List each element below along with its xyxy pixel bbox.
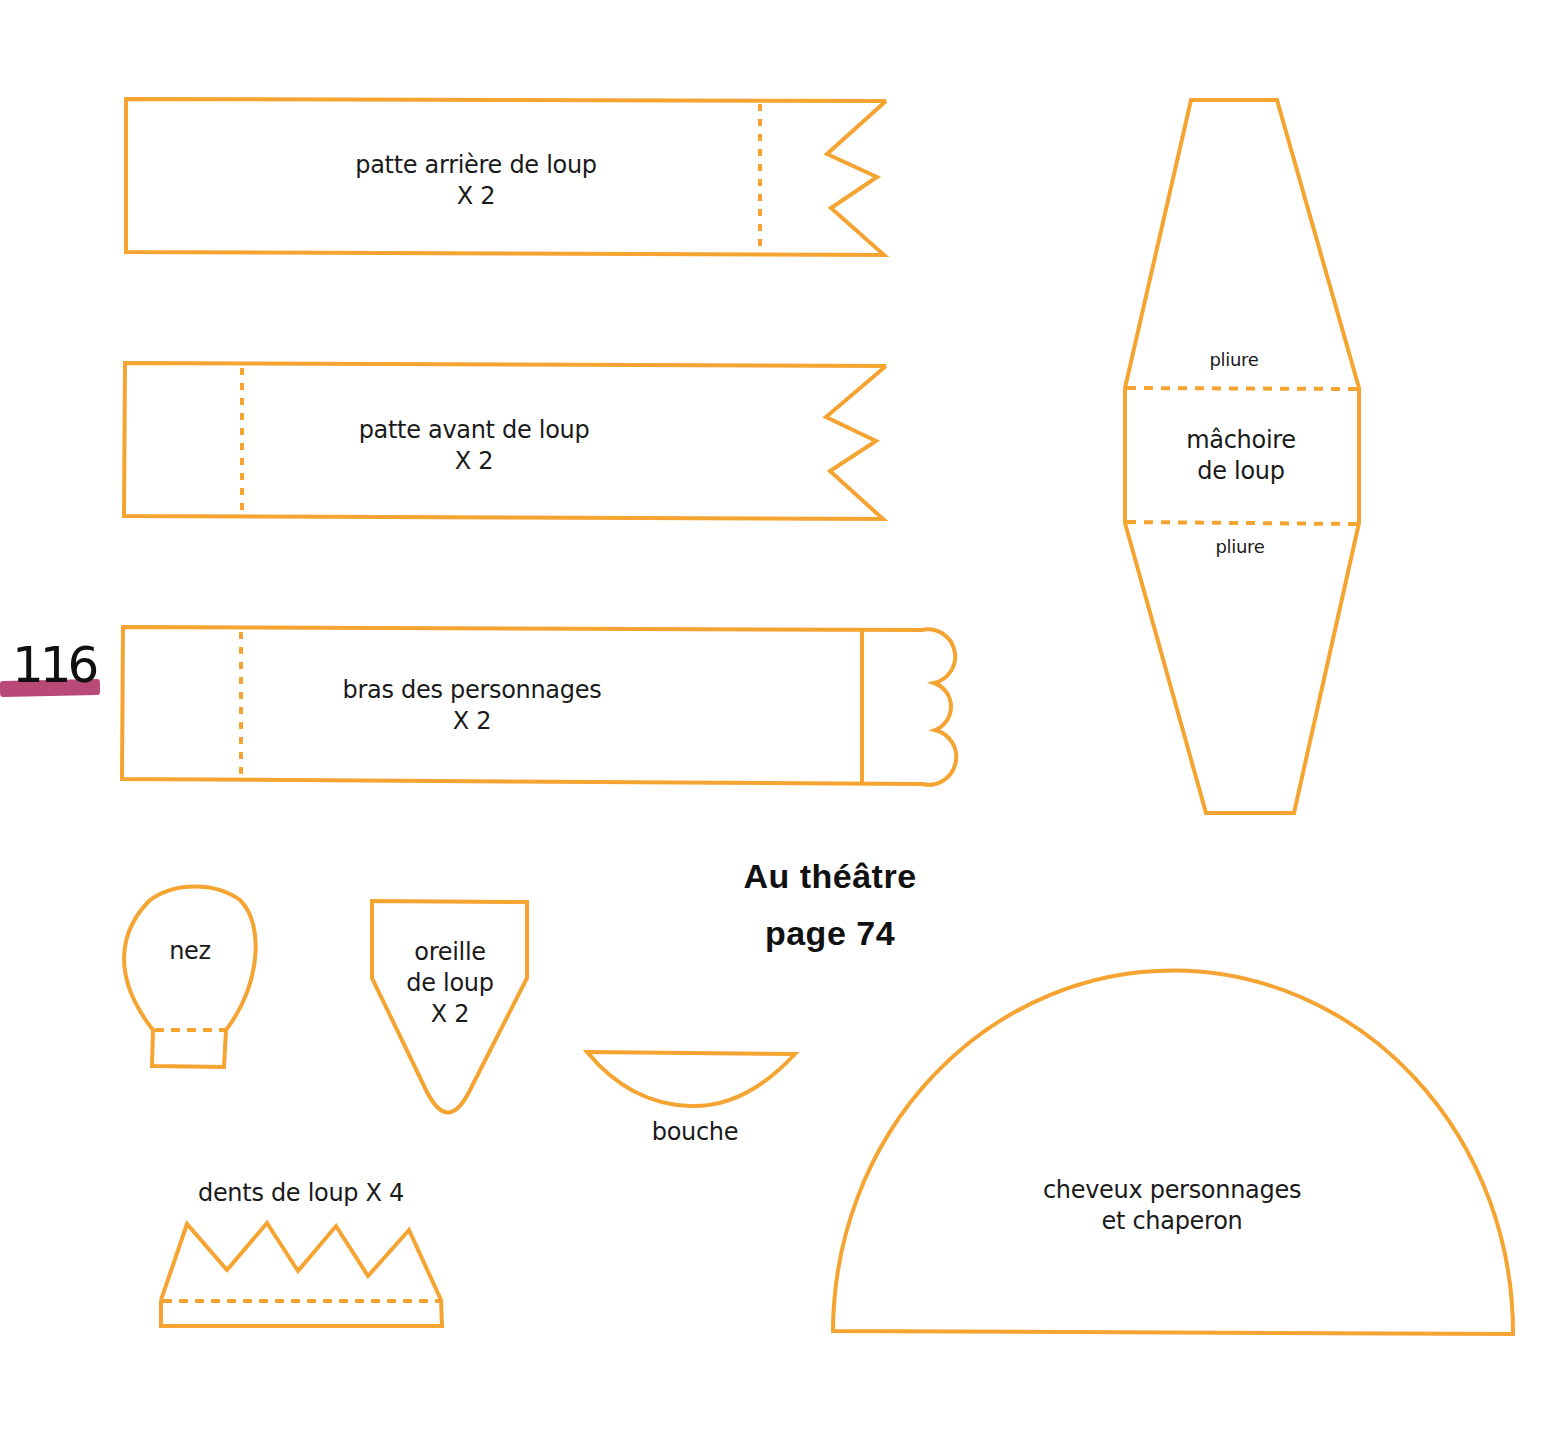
patte-avant-label: patte avant de loup X 2 bbox=[359, 415, 590, 477]
page-title: Au théâtre page 74 bbox=[743, 848, 916, 962]
patte-arriere-quantity: X 2 bbox=[355, 181, 596, 212]
bras-label: bras des personnages X 2 bbox=[343, 675, 602, 737]
patte-avant-name: patte avant de loup bbox=[359, 415, 590, 446]
machoire-fold-top: pliure bbox=[1209, 349, 1258, 371]
oreille-name-line2: de loup bbox=[406, 968, 493, 999]
title-reference: page 74 bbox=[743, 905, 916, 962]
oreille-label: oreille de loup X 2 bbox=[406, 937, 493, 1030]
machoire-name-line2: de loup bbox=[1186, 456, 1296, 487]
cheveux-name-line2: et chaperon bbox=[1043, 1206, 1301, 1237]
handwritten-page-number: 116 bbox=[12, 636, 95, 694]
patte-arriere-name: patte arrière de loup bbox=[355, 150, 596, 181]
cheveux-name-line1: cheveux personnages bbox=[1043, 1175, 1301, 1206]
nez-label: nez bbox=[169, 936, 211, 967]
cheveux-label: cheveux personnages et chaperon bbox=[1043, 1175, 1301, 1237]
dents-label: dents de loup X 4 bbox=[198, 1178, 404, 1209]
machoire-name-line1: mâchoire bbox=[1186, 425, 1296, 456]
oreille-name-line1: oreille bbox=[406, 937, 493, 968]
bras-name: bras des personnages bbox=[343, 675, 602, 706]
patte-arriere-label: patte arrière de loup X 2 bbox=[355, 150, 596, 212]
template-shapes bbox=[0, 0, 1563, 1434]
cheveux-shape bbox=[833, 970, 1513, 1334]
bouche-label: bouche bbox=[652, 1117, 739, 1148]
oreille-quantity: X 2 bbox=[406, 999, 493, 1030]
dents-shape bbox=[161, 1223, 442, 1326]
patte-avant-quantity: X 2 bbox=[359, 446, 590, 477]
machoire-label: mâchoire de loup bbox=[1186, 425, 1296, 487]
machoire-fold-bottom: pliure bbox=[1215, 536, 1264, 558]
bouche-shape bbox=[587, 1052, 795, 1106]
bras-quantity: X 2 bbox=[343, 706, 602, 737]
title-text: Au théâtre bbox=[743, 848, 916, 905]
nez-shape bbox=[124, 887, 256, 1068]
